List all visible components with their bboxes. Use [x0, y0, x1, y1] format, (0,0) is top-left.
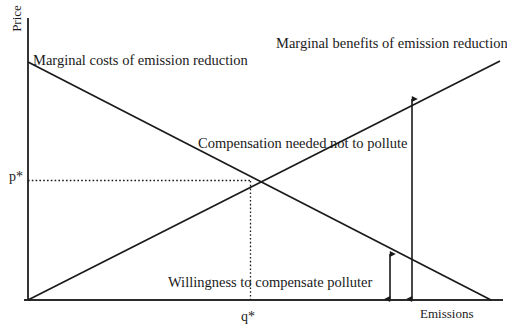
- marginal-costs-curve-label: Marginal costs of emission reduction: [33, 53, 248, 68]
- y-axis-tick-label-price-star: p*: [9, 170, 23, 184]
- marginal-benefits-curve-label: Marginal benefits of emission reduction: [276, 36, 507, 51]
- x-axis-tick-label-quantity-star: q*: [241, 310, 255, 324]
- x-axis-label: Emissions: [420, 307, 473, 320]
- y-axis-label: Price: [10, 0, 23, 49]
- compensation-annotation-label: Compensation needed not to pollute: [198, 136, 407, 151]
- willingness-annotation-label: Willingness to compensate polluter: [168, 275, 372, 290]
- economics-diagram: Price Emissions Marginal costs of emissi…: [0, 0, 507, 334]
- marginal-benefits-curve: [28, 61, 500, 300]
